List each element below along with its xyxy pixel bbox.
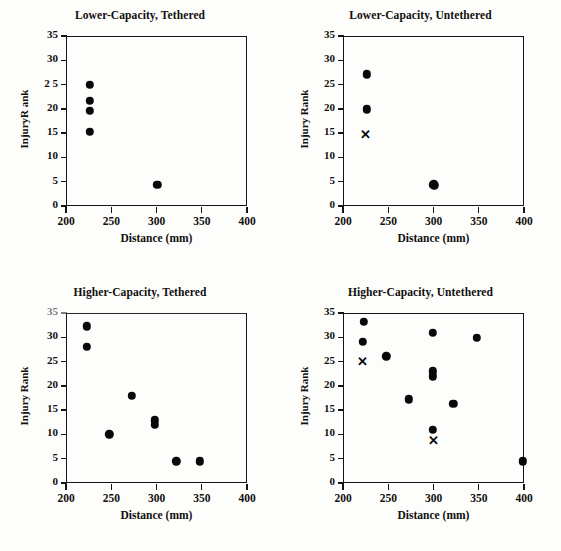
x-tick xyxy=(433,207,434,213)
y-tick-label: 30 xyxy=(24,329,58,341)
x-tick-label: 300 xyxy=(412,215,456,227)
y-tick-label: 5 xyxy=(24,451,58,463)
y-tick-label: 5 xyxy=(24,174,58,186)
x-tick-label: 200 xyxy=(321,492,365,504)
x-tick-label: 300 xyxy=(135,215,179,227)
x-tick xyxy=(201,484,202,490)
y-axis-label: InjuryR ank xyxy=(18,79,30,159)
x-tick-label: 400 xyxy=(225,215,269,227)
panel-lower-capacity-tethered: Lower-Capacity, Tethered051015202 530352… xyxy=(0,0,280,275)
y-axis-label: Injury Rank xyxy=(298,356,310,436)
x-tick-label: 300 xyxy=(412,492,456,504)
y-tick xyxy=(61,35,67,36)
y-tick xyxy=(338,434,344,435)
y-tick xyxy=(338,84,344,85)
x-tick-label: 350 xyxy=(457,215,501,227)
x-tick-label: 300 xyxy=(135,492,179,504)
y-tick-label: 0 xyxy=(301,475,335,487)
y-tick xyxy=(338,181,344,182)
x-tick-label: 350 xyxy=(180,492,224,504)
panel-title: Lower-Capacity, Tethered xyxy=(0,9,280,21)
x-tick xyxy=(111,207,112,213)
y-tick-label: 30 xyxy=(301,329,335,341)
y-tick xyxy=(61,434,67,435)
y-tick xyxy=(338,385,344,386)
panel-title: Higher-Capacity, Untethered xyxy=(280,286,561,298)
x-tick-label: 200 xyxy=(44,215,88,227)
y-tick-label: 0 xyxy=(301,198,335,210)
panel-higher-capacity-untethered: Higher-Capacity, Untethered0510152025303… xyxy=(280,277,561,551)
plot-area xyxy=(343,313,524,483)
x-tick xyxy=(246,484,247,490)
x-tick-label: 200 xyxy=(44,492,88,504)
y-tick-label: 0 xyxy=(24,198,58,210)
x-tick xyxy=(478,484,479,490)
data-point-cross: ✕ xyxy=(357,354,368,367)
y-tick xyxy=(61,60,67,61)
y-tick-label: 35 xyxy=(301,305,335,317)
y-tick-label: 35 xyxy=(24,28,58,40)
y-tick xyxy=(61,361,67,362)
x-tick xyxy=(65,484,66,490)
x-tick-label: 250 xyxy=(89,215,133,227)
y-tick-label: 0 xyxy=(24,475,58,487)
x-tick-label: 350 xyxy=(180,215,224,227)
data-point-cross: ✕ xyxy=(428,434,439,447)
y-tick xyxy=(61,157,67,158)
y-tick xyxy=(338,157,344,158)
y-tick xyxy=(61,84,67,85)
x-axis-label: Distance (mm) xyxy=(66,232,247,244)
y-tick xyxy=(61,409,67,410)
x-tick xyxy=(523,207,524,213)
panel-title: Lower-Capacity, Untethered xyxy=(280,9,561,21)
y-axis-label: Injury Rank xyxy=(298,79,310,159)
y-tick xyxy=(61,458,67,459)
x-tick xyxy=(156,207,157,213)
y-tick xyxy=(338,312,344,313)
x-tick-label: 400 xyxy=(502,492,546,504)
x-tick xyxy=(388,484,389,490)
x-axis-label: Distance (mm) xyxy=(343,509,524,521)
y-tick xyxy=(61,132,67,133)
x-tick xyxy=(342,207,343,213)
x-tick-label: 350 xyxy=(457,492,501,504)
data-point-cross: ✕ xyxy=(360,128,371,141)
figure-scatter-panels: Lower-Capacity, Tethered051015202 530352… xyxy=(0,0,561,551)
y-tick-label: 35 xyxy=(24,305,58,317)
x-tick xyxy=(156,484,157,490)
y-tick xyxy=(338,361,344,362)
x-tick-label: 250 xyxy=(366,492,410,504)
y-tick xyxy=(338,35,344,36)
x-tick xyxy=(246,207,247,213)
x-tick xyxy=(388,207,389,213)
y-tick xyxy=(61,337,67,338)
plot-area xyxy=(66,313,247,483)
x-tick xyxy=(523,484,524,490)
y-tick-label: 30 xyxy=(301,52,335,64)
x-tick-label: 200 xyxy=(321,215,365,227)
y-tick xyxy=(61,385,67,386)
x-tick xyxy=(342,484,343,490)
panel-higher-capacity-tethered: Higher-Capacity, Tethered051015202530352… xyxy=(0,277,280,551)
y-tick-label: 30 xyxy=(24,52,58,64)
y-tick-label: 5 xyxy=(301,174,335,186)
y-tick xyxy=(61,312,67,313)
y-tick xyxy=(338,458,344,459)
y-tick xyxy=(338,337,344,338)
x-tick xyxy=(201,207,202,213)
x-tick-label: 400 xyxy=(502,215,546,227)
y-tick xyxy=(61,108,67,109)
x-tick xyxy=(433,484,434,490)
x-axis-label: Distance (mm) xyxy=(66,509,247,521)
x-tick xyxy=(65,207,66,213)
panel-lower-capacity-untethered: Lower-Capacity, Untethered05101520253035… xyxy=(280,0,561,275)
y-tick xyxy=(338,108,344,109)
x-tick xyxy=(478,207,479,213)
x-axis-label: Distance (mm) xyxy=(343,232,524,244)
y-tick xyxy=(61,181,67,182)
x-tick xyxy=(111,484,112,490)
y-tick-label: 5 xyxy=(301,451,335,463)
y-tick xyxy=(338,409,344,410)
x-tick-label: 250 xyxy=(366,215,410,227)
data-point-circle xyxy=(519,457,527,465)
